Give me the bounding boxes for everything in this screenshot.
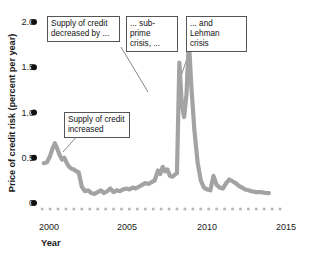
annotation-subprime-line1: ... sub-prime	[130, 19, 174, 39]
annotation-supply-decreased-line1: Supply of credit	[51, 19, 116, 29]
chart-figure: Price of credit risk (percent per year) …	[0, 0, 309, 260]
annotation-lehman-line1: ... and Lehman	[190, 19, 243, 39]
annotation-supply-decreased: Supply of credit decreased by ...	[47, 16, 120, 42]
annotation-lehman: ... and Lehman crisis	[186, 16, 247, 52]
annotation-supply-increased-line1: Supply of credit	[68, 115, 126, 125]
annotation-supply-decreased-line2: decreased by ...	[51, 29, 116, 39]
annotation-subprime-line2: crisis, ...	[130, 39, 174, 49]
annotation-supply-increased: Supply of credit increased	[64, 112, 130, 138]
annotation-subprime: ... sub-prime crisis, ...	[126, 16, 178, 52]
annotation-lehman-line2: crisis	[190, 39, 243, 49]
annotation-supply-increased-line2: increased	[68, 125, 126, 135]
